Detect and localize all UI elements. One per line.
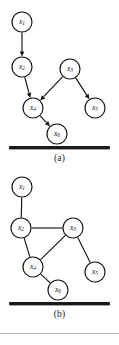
graph-node-x4: x4 bbox=[23, 98, 43, 118]
graph-node-x1: x1 bbox=[12, 177, 32, 197]
arrow-head-icon bbox=[85, 94, 90, 99]
graph-node-x2: x2 bbox=[12, 57, 32, 77]
panel-caption-a: (a) bbox=[0, 153, 119, 163]
graph-node-x1: x1 bbox=[12, 12, 32, 32]
ground-bar-a bbox=[9, 146, 110, 149]
arrow-head-icon bbox=[20, 52, 25, 57]
graph-node-x5: x5 bbox=[85, 262, 105, 282]
graph-node-x4: x4 bbox=[23, 257, 43, 277]
graph-node-x5: x5 bbox=[85, 98, 105, 118]
ground-bar-b bbox=[9, 302, 110, 305]
undirected-edge bbox=[24, 238, 30, 257]
directed-edge bbox=[76, 78, 87, 95]
graph-diagram-a: x1x2x3x4x5x6 bbox=[0, 0, 119, 150]
graph-diagram-b: x1x2x3x4x5x6 bbox=[0, 172, 119, 307]
figure-panel-b: x1x2x3x4x5x6 (b) bbox=[0, 172, 119, 345]
graph-node-x3: x3 bbox=[63, 218, 83, 238]
undirected-edge bbox=[41, 274, 50, 283]
directed-edge bbox=[44, 77, 63, 97]
undirected-edge bbox=[41, 235, 66, 259]
page-rule bbox=[0, 333, 119, 334]
graph-node-x3: x3 bbox=[60, 59, 80, 79]
panel-caption-b: (b) bbox=[0, 309, 119, 319]
figure-panel-a: x1x2x3x4x5x6 (a) bbox=[0, 0, 119, 172]
undirected-edge bbox=[78, 237, 91, 262]
graph-node-x2: x2 bbox=[11, 218, 31, 238]
directed-edge bbox=[40, 116, 46, 123]
graph-node-x6: x6 bbox=[47, 124, 67, 144]
graph-node-x6: x6 bbox=[48, 280, 68, 300]
directed-edge bbox=[25, 77, 29, 93]
arrow-head-icon bbox=[27, 93, 31, 98]
